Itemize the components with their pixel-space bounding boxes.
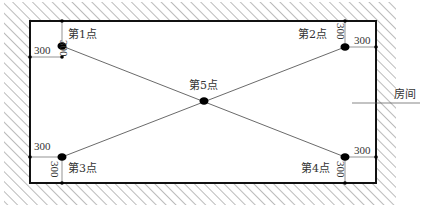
measurement-point-4 — [341, 153, 350, 161]
dim-text-p2-top: 300 — [335, 23, 347, 40]
dim-text-p3-left: 300 — [34, 140, 51, 152]
dim-text-p4-right: 300 — [354, 144, 371, 156]
dim-text-p1-top: 300 — [58, 40, 70, 57]
dim-tick — [60, 19, 64, 23]
measurement-point-3 — [58, 153, 67, 161]
dim-text-p3-bottom: 300 — [49, 161, 61, 178]
dim-text-p1-left: 300 — [34, 44, 51, 56]
point-label-3: 第3点 — [68, 161, 97, 175]
dim-tick — [374, 45, 378, 49]
dim-tick — [28, 155, 32, 159]
dim-tick — [343, 181, 347, 185]
measurement-point-5 — [200, 97, 209, 105]
point-label-1: 第1点 — [68, 27, 97, 41]
point-label-5: 第5点 — [189, 78, 218, 92]
dim-tick — [374, 155, 378, 159]
measurement-point-2 — [341, 43, 350, 51]
dim-text-p4-bottom: 300 — [335, 161, 347, 178]
dim-text-p2-right: 300 — [354, 34, 371, 46]
point-label-4: 第4点 — [301, 161, 330, 175]
dim-tick — [28, 55, 32, 59]
room-label: 房间 — [394, 88, 416, 101]
dim-tick — [60, 181, 64, 185]
room-diagram: 房间 第1点 第2点 第3点 第4点 第5点 300 300 300 300 3… — [0, 0, 440, 210]
point-label-2: 第2点 — [298, 27, 327, 41]
